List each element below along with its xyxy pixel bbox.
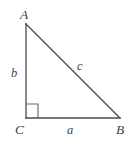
vertex-label-c: C (15, 123, 24, 137)
side-label-a: a (67, 124, 73, 137)
side-label-b: b (11, 67, 17, 80)
vertex-label-b: B (116, 123, 124, 137)
right-triangle-figure: A B C a b c (0, 0, 131, 142)
vertex-label-a: A (20, 8, 28, 22)
side-label-c: c (77, 60, 83, 73)
